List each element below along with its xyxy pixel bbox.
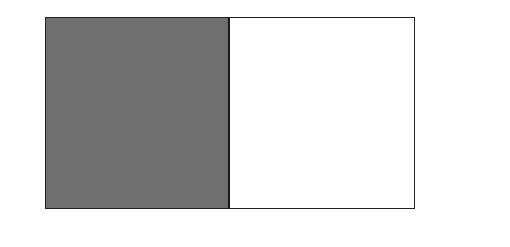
heatmap-right-panel <box>229 17 415 209</box>
heatmap-left-panel <box>45 17 230 209</box>
